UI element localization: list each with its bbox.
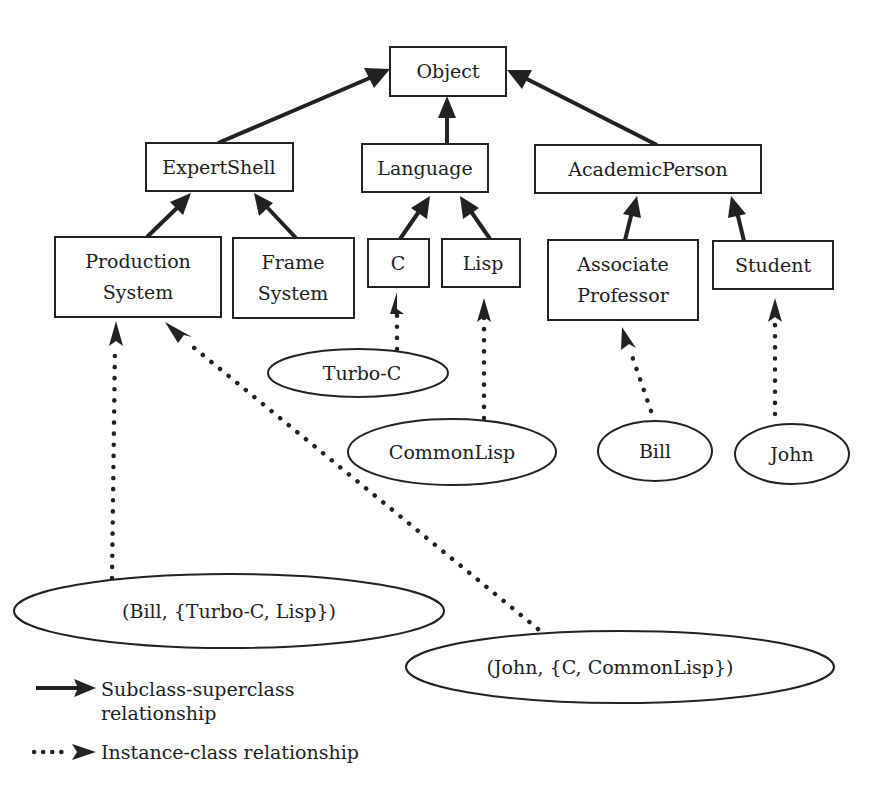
legend-dotted: Instance-class relationship	[34, 741, 359, 763]
edge-bill-assocprof	[621, 327, 651, 411]
edge-turboc-c	[390, 292, 404, 349]
class-label-line1: Frame	[262, 251, 325, 273]
instance-label: (Bill, {Turbo-C, Lisp})	[122, 600, 336, 622]
class-label: C	[391, 252, 406, 274]
legend-solid: Subclass-superclass relationship	[36, 678, 294, 724]
class-label-line2: System	[258, 282, 328, 304]
class-language: Language	[362, 144, 488, 192]
edge-commonlisp-lisp	[477, 298, 491, 418]
class-c: C	[368, 239, 429, 287]
class-label-line2: System	[103, 281, 173, 303]
edge-assocprof-academicperson	[623, 196, 641, 240]
edge-billpair-production	[109, 321, 123, 578]
class-academicperson: AcademicPerson	[535, 145, 761, 193]
edge-student-academicperson	[728, 196, 746, 241]
edge-frame-expertshell	[254, 193, 296, 238]
instance-john-pair: (John, {C, CommonLisp})	[406, 631, 834, 703]
class-student: Student	[713, 241, 833, 289]
class-label: Lisp	[463, 252, 504, 274]
class-production-system: Production System	[55, 237, 221, 317]
instance-john: John	[735, 424, 849, 484]
class-hierarchy-diagram: Object ExpertShell Language AcademicPers…	[0, 0, 888, 806]
class-expertshell: ExpertShell	[146, 143, 293, 191]
class-label-line1: Associate	[576, 253, 669, 275]
instance-bill-pair: (Bill, {Turbo-C, Lisp})	[14, 574, 444, 648]
class-label: ExpertShell	[162, 156, 275, 178]
instance-label: (John, {C, CommonLisp})	[487, 656, 734, 678]
dotted-arrowhead-icon	[72, 744, 96, 760]
edge-lisp-language	[460, 196, 490, 239]
instance-label: Turbo-C	[323, 362, 402, 384]
class-frame-system: Frame System	[233, 238, 354, 318]
class-label: Language	[377, 157, 472, 179]
instance-bill: Bill	[598, 421, 712, 481]
class-label: Object	[416, 60, 480, 82]
instance-label: Bill	[639, 440, 671, 462]
instance-label: CommonLisp	[389, 441, 515, 463]
edge-production-expertshell	[147, 193, 191, 237]
class-label-line2: Professor	[577, 284, 670, 306]
legend-dotted-label: Instance-class relationship	[101, 741, 359, 763]
class-label: AcademicPerson	[567, 158, 728, 180]
edge-c-language	[400, 196, 430, 239]
class-lisp: Lisp	[442, 239, 520, 287]
edge-academicperson-object	[507, 70, 657, 145]
legend-solid-line2: relationship	[101, 702, 216, 724]
class-label-line1: Production	[85, 250, 191, 272]
instance-turbo-c: Turbo-C	[268, 349, 448, 397]
edge-language-object	[438, 96, 456, 144]
edge-expertshell-object	[218, 68, 390, 143]
instance-commonlisp: CommonLisp	[348, 419, 556, 485]
class-associate-professor: Associate Professor	[548, 240, 698, 320]
class-object: Object	[390, 47, 506, 96]
edge-john-student	[768, 298, 782, 414]
class-label: Student	[735, 254, 812, 276]
instance-label: John	[768, 443, 814, 465]
legend-solid-line1: Subclass-superclass	[101, 678, 294, 700]
legend: Subclass-superclass relationship Instanc…	[34, 678, 359, 763]
